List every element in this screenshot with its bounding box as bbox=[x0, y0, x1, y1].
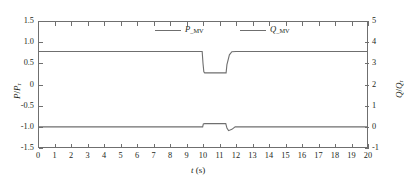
y-left-tick-1 bbox=[39, 42, 43, 43]
x-axis-title-unit: (s) bbox=[196, 165, 206, 175]
x-tick-7 bbox=[154, 144, 155, 148]
x-tick-top-0 bbox=[38, 22, 39, 26]
y-axis-title-left: P/Pr bbox=[12, 83, 22, 99]
y-left-tick-6 bbox=[39, 148, 43, 149]
x-tick-12 bbox=[236, 144, 237, 148]
legend-label-p-mv: P_MV bbox=[185, 24, 204, 34]
y-left-tick-2 bbox=[39, 63, 43, 64]
y-right-tick-5 bbox=[365, 127, 369, 128]
y-right-tick-label-4: 1 bbox=[372, 101, 396, 110]
y-left-tick-label-6: -1.5 bbox=[2, 143, 34, 152]
y-left-tick-label-1: 1.0 bbox=[2, 37, 34, 46]
x-tick-top-3 bbox=[88, 22, 89, 26]
x-tick-3 bbox=[88, 144, 89, 148]
x-tick-15 bbox=[286, 144, 287, 148]
y-right-tick-label-2: 3 bbox=[372, 58, 396, 67]
y-axis-title-right-sub: r bbox=[397, 80, 404, 82]
chart-figure: 012345678910111213141516171819201.51.00.… bbox=[0, 0, 411, 186]
plot-area: 012345678910111213141516171819201.51.00.… bbox=[0, 0, 411, 186]
x-tick-6 bbox=[137, 144, 138, 148]
y-axis-title-left-p: P bbox=[12, 94, 22, 100]
x-axis-title: t (s) bbox=[191, 165, 205, 175]
x-tick-top-17 bbox=[319, 22, 320, 26]
series-p-mv bbox=[38, 51, 368, 72]
legend: P_MV Q_MV bbox=[155, 24, 315, 38]
x-tick-5 bbox=[121, 144, 122, 148]
legend-swatch-q-mv bbox=[240, 30, 266, 31]
curve-layer bbox=[38, 21, 368, 148]
y-right-tick-label-5: 0 bbox=[372, 122, 396, 131]
x-tick-18 bbox=[335, 144, 336, 148]
x-tick-16 bbox=[302, 144, 303, 148]
x-tick-label-20: 20 bbox=[356, 151, 380, 160]
x-tick-11 bbox=[220, 144, 221, 148]
x-tick-14 bbox=[269, 144, 270, 148]
series-q-mv bbox=[38, 124, 368, 131]
y-axis-title-right-qr: Q bbox=[394, 82, 404, 89]
y-right-tick-3 bbox=[365, 85, 369, 86]
y-right-tick-label-3: 2 bbox=[372, 80, 396, 89]
y-left-tick-label-4: -0.5 bbox=[2, 101, 34, 110]
y-left-tick-3 bbox=[39, 85, 43, 86]
x-tick-9 bbox=[187, 144, 188, 148]
x-tick-2 bbox=[71, 144, 72, 148]
y-axis-title-left-pr: P bbox=[12, 85, 22, 91]
y-right-tick-1 bbox=[365, 42, 369, 43]
y-left-tick-label-0: 1.5 bbox=[2, 16, 34, 25]
y-right-tick-label-1: 4 bbox=[372, 37, 396, 46]
x-tick-4 bbox=[104, 144, 105, 148]
x-tick-top-18 bbox=[335, 22, 336, 26]
x-tick-13 bbox=[253, 144, 254, 148]
y-axis-title-right-q: Q bbox=[394, 92, 404, 99]
x-tick-top-19 bbox=[352, 22, 353, 26]
y-left-tick-label-5: -1.0 bbox=[2, 122, 34, 131]
x-axis-title-t: t bbox=[191, 165, 194, 175]
y-right-tick-label-0: 5 bbox=[372, 16, 396, 25]
y-left-tick-4 bbox=[39, 106, 43, 107]
y-left-tick-label-2: 0.5 bbox=[2, 58, 34, 67]
x-tick-17 bbox=[319, 144, 320, 148]
x-tick-top-2 bbox=[71, 22, 72, 26]
x-tick-top-20 bbox=[368, 22, 369, 26]
x-tick-top-5 bbox=[121, 22, 122, 26]
x-tick-top-1 bbox=[55, 22, 56, 26]
y-right-tick-4 bbox=[365, 106, 369, 107]
x-tick-8 bbox=[170, 144, 171, 148]
x-tick-top-4 bbox=[104, 22, 105, 26]
y-right-tick-6 bbox=[365, 148, 369, 149]
y-right-tick-0 bbox=[365, 21, 369, 22]
y-right-tick-2 bbox=[365, 63, 369, 64]
x-tick-top-6 bbox=[137, 22, 138, 26]
x-tick-10 bbox=[203, 144, 204, 148]
x-tick-1 bbox=[55, 144, 56, 148]
y-right-tick-label-6: -1 bbox=[372, 143, 396, 152]
y-axis-title-left-sub: r bbox=[15, 83, 22, 85]
legend-label-q-mv: Q_MV bbox=[270, 24, 290, 34]
y-left-tick-5 bbox=[39, 127, 43, 128]
x-tick-19 bbox=[352, 144, 353, 148]
y-axis-title-right: Q/Qr bbox=[394, 80, 404, 98]
y-left-tick-0 bbox=[39, 21, 43, 22]
legend-swatch-p-mv bbox=[155, 30, 181, 31]
